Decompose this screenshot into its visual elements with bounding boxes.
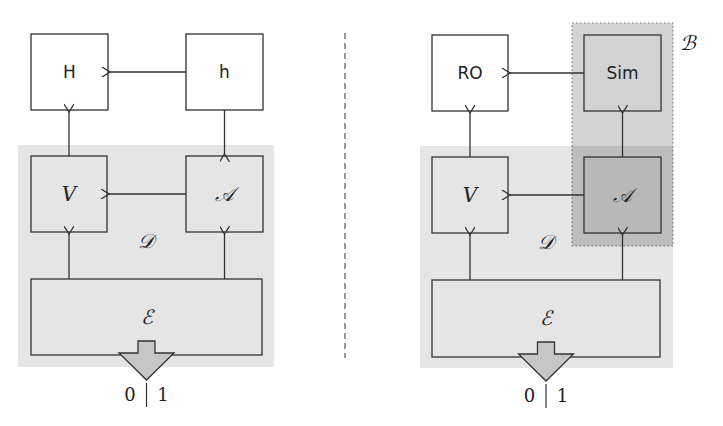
region-B-label: ℬ [680,31,697,55]
left-diagram: H h V 𝒜 ℰ 𝒟 0 [18,34,274,407]
box-H: H [31,34,108,110]
box-E-right-label: ℰ [540,306,554,330]
right-diagram: ℬ RO Sim V 𝒜 ℰ 𝒟 [420,23,697,408]
box-V-right: V [432,157,508,233]
box-RO-label: RO [457,63,482,83]
box-A-right: 𝒜 [584,157,661,233]
output-right-zero: 0 [524,385,535,406]
box-h-label: h [219,62,230,82]
output-zero: 0 [124,384,135,405]
box-H-label: H [63,62,76,82]
box-Sim: Sim [584,35,661,111]
output-one: 1 [157,384,168,405]
box-Sim-label: Sim [606,63,638,83]
box-V: V [31,156,107,232]
box-A: 𝒜 [186,156,263,232]
box-E-label: ℰ [141,305,155,329]
output-right-one: 1 [557,385,568,406]
box-V-right-label: V [463,183,480,207]
box-RO: RO [432,35,508,111]
box-h: h [186,34,263,110]
diagram-canvas: H h V 𝒜 ℰ 𝒟 0 [0,0,723,426]
box-V-label: V [62,182,79,206]
